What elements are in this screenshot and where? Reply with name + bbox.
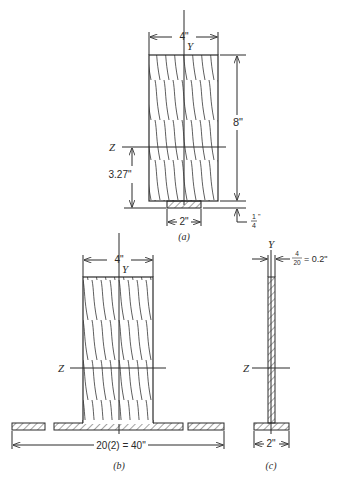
wood-beam-a	[149, 55, 218, 201]
figure-b	[12, 233, 224, 449]
caption-c: (c)	[265, 460, 277, 472]
svg-text:4: 4	[295, 250, 299, 257]
y-axis-label-c: Y	[268, 238, 276, 250]
steel-plate-a	[167, 201, 201, 208]
neutral-axis-dim-a: 3.27"	[108, 169, 131, 180]
z-axis-label-c: Z	[243, 362, 250, 374]
flange-segment-right	[188, 423, 224, 430]
wood-beam-b	[83, 277, 153, 423]
flange-width-dim-b: 20(2) = 40"	[96, 440, 146, 451]
plate-thickness-dim-a: 1 4 "	[251, 213, 261, 229]
svg-text:1: 1	[252, 213, 256, 220]
svg-text:20: 20	[293, 259, 301, 266]
svg-text:= 0.2": = 0.2"	[304, 254, 327, 264]
transformed-section-diagram: 4" Y 8" Z 3.27" 2" 1 4 " (a) 4" Y Z 20(2…	[0, 0, 339, 487]
svg-text:": "	[258, 213, 261, 220]
caption-b: (b)	[113, 460, 125, 472]
steel-flange-c	[254, 423, 289, 430]
figure-a	[122, 10, 247, 226]
figure-c	[252, 250, 290, 448]
flange-segment-center	[54, 423, 183, 430]
caption-a: (a)	[178, 231, 190, 243]
height-dim-a: 8"	[233, 116, 243, 128]
z-axis-label-a: Z	[109, 141, 116, 153]
flange-segment-left	[12, 423, 45, 430]
y-axis-label-a: Y	[187, 40, 195, 52]
plate-width-dim-a: 2"	[179, 216, 189, 227]
svg-text:4: 4	[252, 222, 256, 229]
z-axis-label-b: Z	[58, 362, 65, 374]
steel-web-c	[268, 277, 275, 423]
flange-width-dim-c: 2"	[266, 438, 276, 449]
y-axis-label-b: Y	[122, 263, 130, 275]
web-thickness-dim-c: 4 20 = 0.2"	[292, 250, 327, 266]
